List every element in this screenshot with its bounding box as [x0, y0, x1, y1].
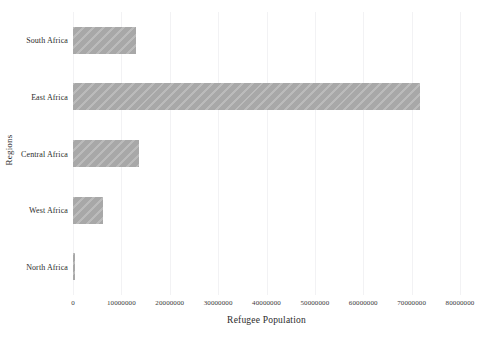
- bar: [73, 140, 139, 167]
- x-tick-label: 30000000: [204, 299, 233, 307]
- bar: [73, 253, 75, 280]
- x-gridline: [267, 12, 268, 295]
- x-axis-title: Refugee Population: [73, 315, 460, 325]
- y-tick-label: West Africa: [14, 206, 68, 215]
- x-gridline: [170, 12, 171, 295]
- y-tick-label: North Africa: [14, 262, 68, 271]
- x-gridline: [363, 12, 364, 295]
- x-tick-label: 40000000: [252, 299, 281, 307]
- x-tick-label: 60000000: [349, 299, 378, 307]
- x-gridline: [218, 12, 219, 295]
- bar: [73, 83, 420, 110]
- y-tick-label: East Africa: [14, 92, 68, 101]
- bar: [73, 27, 136, 54]
- x-tick-label: 20000000: [155, 299, 184, 307]
- x-tick-label: 0: [71, 299, 75, 307]
- x-gridline: [315, 12, 316, 295]
- bar-chart-figure: Regions Refugee Population 0100000002000…: [0, 0, 484, 337]
- x-gridline: [460, 12, 461, 295]
- x-tick-label: 10000000: [107, 299, 136, 307]
- plot-area: [73, 12, 460, 295]
- bar: [73, 197, 103, 224]
- y-tick-label: South Africa: [14, 36, 68, 45]
- x-tick-label: 70000000: [397, 299, 426, 307]
- x-tick-label: 80000000: [446, 299, 475, 307]
- y-axis-title-text: Regions: [4, 135, 14, 166]
- y-tick-label: Central Africa: [14, 149, 68, 158]
- x-gridline: [412, 12, 413, 295]
- x-tick-label: 50000000: [300, 299, 329, 307]
